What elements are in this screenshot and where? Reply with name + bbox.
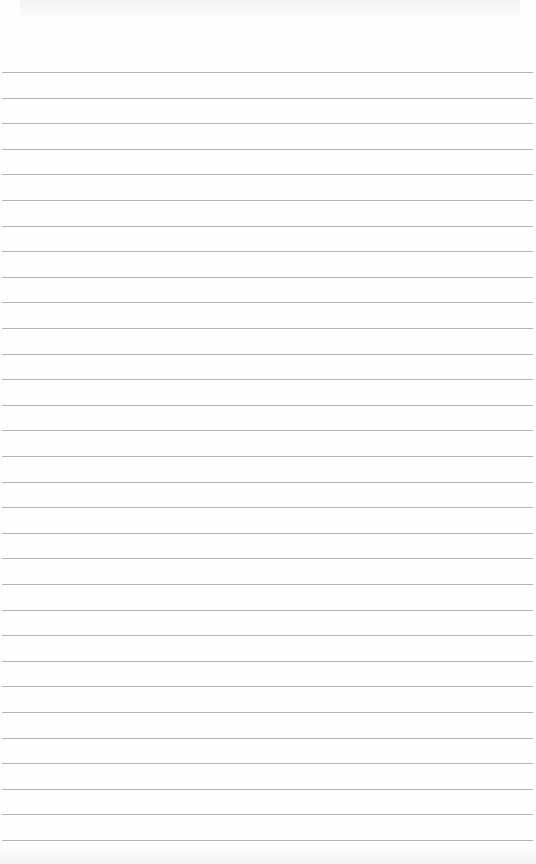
ruled-line [2, 840, 533, 841]
ruled-line [2, 584, 533, 585]
bottom-edge-shading [0, 845, 536, 864]
top-edge-shading [20, 0, 520, 20]
ruled-line [2, 661, 533, 662]
ruled-line [2, 533, 533, 534]
ruled-line [2, 174, 533, 175]
ruled-line [2, 814, 533, 815]
ruled-line [2, 558, 533, 559]
ruled-line [2, 507, 533, 508]
ruled-line [2, 200, 533, 201]
ruled-line [2, 328, 533, 329]
ruled-line [2, 149, 533, 150]
ruled-line [2, 610, 533, 611]
ruled-line [2, 226, 533, 227]
ruled-line [2, 405, 533, 406]
ruled-line [2, 277, 533, 278]
ruled-line [2, 738, 533, 739]
ruled-line [2, 302, 533, 303]
ruled-line [2, 354, 533, 355]
ruled-line [2, 482, 533, 483]
ruled-line [2, 379, 533, 380]
ruled-line [2, 763, 533, 764]
ruled-line [2, 123, 533, 124]
ruled-line [2, 251, 533, 252]
ruled-line [2, 98, 533, 99]
ruled-line [2, 789, 533, 790]
ruled-line [2, 72, 533, 73]
ruled-line [2, 430, 533, 431]
ruled-line [2, 635, 533, 636]
ruled-line [2, 456, 533, 457]
lined-paper-sheet [0, 0, 536, 864]
ruled-line [2, 712, 533, 713]
ruled-line [2, 686, 533, 687]
